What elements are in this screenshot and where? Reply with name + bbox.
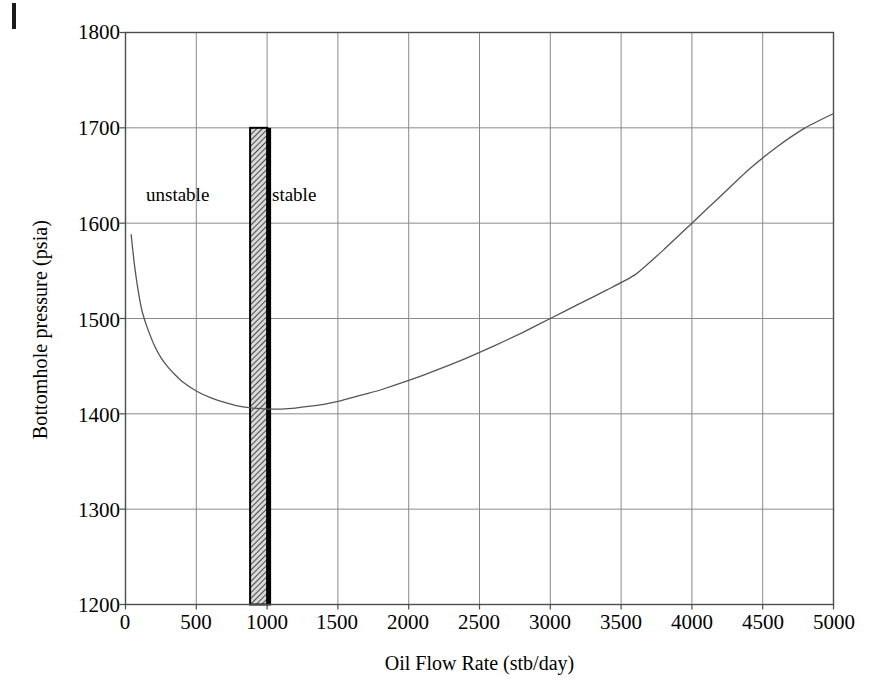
plot-frame: [126, 33, 834, 605]
y-tick-label: 1400: [34, 405, 120, 426]
y-tick-label: 1500: [34, 310, 120, 331]
pressure-curve: [131, 114, 833, 410]
y-tick-label: 1700: [34, 118, 120, 139]
x-axis-title: Oil Flow Rate (stb/day): [125, 652, 834, 675]
y-tick-label: 1600: [34, 214, 120, 235]
y-tick-label: 1300: [34, 500, 120, 521]
plot-area: [0, 0, 885, 695]
x-tick-label: 5000: [789, 612, 879, 633]
stability-band: [250, 128, 271, 606]
gridlines: [126, 33, 834, 605]
y-tick-label: 1800: [34, 22, 120, 43]
page-edge-mark: [12, 3, 16, 29]
chart-figure: Bottomhole pressure (psia) Oil Flow Rate…: [0, 0, 885, 695]
tick-marks: [120, 33, 834, 610]
unstable-region-label: unstable: [146, 184, 209, 206]
stable-region-label: stable: [272, 184, 316, 206]
